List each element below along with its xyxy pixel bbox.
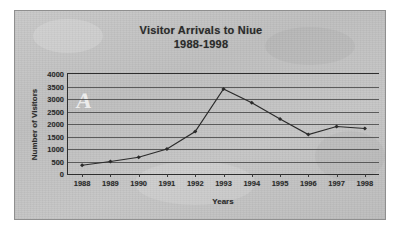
x-axis-title: Years [67, 197, 379, 206]
y-axis-tick-label: 3500 [47, 82, 64, 91]
data-point-marker [363, 126, 367, 130]
x-axis-tick-label: 1997 [328, 179, 345, 188]
scanned-chart-image: Visitor Arrivals to Niue 1988-1998 Numbe… [14, 10, 386, 220]
x-axis-tick [224, 174, 225, 177]
x-axis-tick [252, 174, 253, 177]
x-axis-tick [82, 174, 83, 177]
y-axis-title: Number of Visitors [29, 73, 41, 175]
x-axis-tick [110, 174, 111, 177]
y-axis-tick-label: 3000 [47, 95, 64, 104]
scanned-page: Visitor Arrivals to Niue 1988-1998 Numbe… [0, 0, 404, 240]
x-axis-tick-label: 1998 [357, 179, 374, 188]
chart-title-line-2: 1988-1998 [15, 37, 387, 51]
y-axis-tick-label: 0 [60, 170, 64, 179]
data-point-marker [80, 163, 84, 167]
x-axis-tick [139, 174, 140, 177]
x-axis-tick-label: 1996 [300, 179, 317, 188]
plot-area: A 40003500300025002000150010005000 19881… [67, 73, 379, 175]
x-axis-tick [280, 174, 281, 177]
x-axis-tick-label: 1992 [187, 179, 204, 188]
x-axis-tick-label: 1993 [215, 179, 232, 188]
y-axis-tick-label: 2000 [47, 120, 64, 129]
x-axis-tick [337, 174, 338, 177]
chart-title: Visitor Arrivals to Niue 1988-1998 [15, 23, 387, 51]
data-point-marker [108, 159, 112, 163]
y-axis-tick-label: 2500 [47, 107, 64, 116]
y-axis-tick-label: 1000 [47, 145, 64, 154]
x-axis-tick [365, 174, 366, 177]
y-axis-title-text: Number of Visitors [31, 88, 40, 159]
x-axis-tick-label: 1995 [272, 179, 289, 188]
y-axis-tick-label: 1500 [47, 132, 64, 141]
x-axis-tick-label: 1994 [243, 179, 260, 188]
x-axis-tick-label: 1990 [130, 179, 147, 188]
x-axis-tick-label: 1991 [159, 179, 176, 188]
y-axis-tick-label: 4000 [47, 70, 64, 79]
data-point-marker [334, 124, 338, 128]
series-line [82, 89, 365, 165]
chart-title-line-1: Visitor Arrivals to Niue [15, 23, 387, 37]
x-axis-tick [195, 174, 196, 177]
x-axis-tick-label: 1989 [102, 179, 119, 188]
data-series-line [68, 74, 379, 174]
y-axis-tick-label: 500 [51, 157, 64, 166]
x-axis-tick [308, 174, 309, 177]
x-axis-tick-label: 1988 [74, 179, 91, 188]
data-point-marker [137, 155, 141, 159]
x-axis-tick [167, 174, 168, 177]
